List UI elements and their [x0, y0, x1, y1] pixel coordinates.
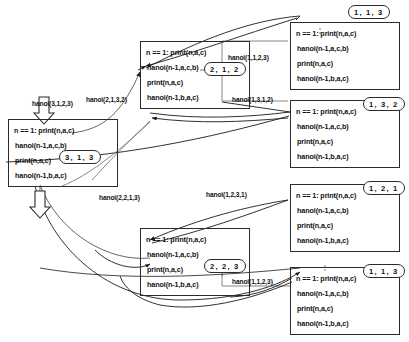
frame-code-line: hanoi(n-1,a,c,b)	[9, 141, 117, 150]
frame-code-line: n == 1: print(n,a,c)	[9, 126, 117, 135]
diagram-canvas: n == 1: print(n,a,c) hanoi(n-1,a,c,b) pr…	[0, 0, 409, 342]
frame-tag-1-1-3-top: 1, 1, 3	[348, 5, 390, 19]
frame-tag-1-3-2: 1, 3, 2	[363, 97, 405, 111]
frame-code-line: print(n,a,c)	[291, 59, 399, 68]
frame-tag-3-1-3: 3, 1, 3	[59, 150, 101, 164]
frame-code-line: n == 1: print(n,a,c)	[141, 235, 249, 244]
call-label-2-2-1-3: hanoi(2,2,1,3)	[99, 194, 140, 201]
frame-code-line: hanoi(n-1,a,c,b)	[141, 250, 249, 259]
stack-frame-1-1-3-top[interactable]: n == 1: print(n,a,c) hanoi(n-1,a,c,b) pr…	[290, 22, 400, 90]
frame-code-line: hanoi(n-1,b,a,c)	[9, 171, 117, 180]
call-label-2-1-3-2: hanoi(2,1,3,2)	[86, 96, 127, 103]
call-label-1-1-2-3-bottom: hanoi(1,1,2,3)	[232, 278, 273, 285]
frame-code-line: hanoi(n-1,a,c,b)	[291, 206, 399, 215]
frame-code-line: hanoi(n-1,b,a,c)	[291, 74, 399, 83]
frame-code-line: hanoi(n-1,a,c,b)	[291, 122, 399, 131]
frame-code-line: print(n,a,c)	[291, 137, 399, 146]
frame-tag-1-2-1: 1, 2, 1	[363, 181, 405, 195]
call-label-root: hanoi(3,1,2,3)	[32, 100, 73, 107]
frame-tag-1-1-3-bottom: 1, 1, 3	[363, 264, 405, 278]
frame-tag-2-1-2: 2, 1, 2	[204, 62, 246, 76]
call-label-1-2-3-1: hanoi(1,2,3,1)	[206, 191, 247, 198]
call-label-1-3-1-2: hanoi(1,3,1,2)	[232, 96, 273, 103]
frame-code-line: hanoi(n-1,b,a,c)	[291, 152, 399, 161]
frame-code-line: hanoi(n-1,a,c,b)	[291, 44, 399, 53]
frame-code-line: hanoi(n-1,a,c,b)	[291, 289, 399, 298]
frame-code-line: n == 1: print(n,a,c)	[291, 29, 399, 38]
frame-code-line: hanoi(n-1,b,a,c)	[291, 319, 399, 328]
exit-arrow-icon	[28, 190, 52, 220]
frame-tag-2-2-3: 2, 2, 3	[204, 259, 246, 273]
frame-code-line: print(n,a,c)	[291, 221, 399, 230]
frame-code-line: print(n,a,c)	[291, 304, 399, 313]
frame-code-line: print(n,a,c)	[141, 78, 249, 87]
frame-code-line: hanoi(n-1,b,a,c)	[291, 236, 399, 245]
call-label-1-1-2-3-top: hanoi(1,1,2,3)	[228, 54, 269, 61]
